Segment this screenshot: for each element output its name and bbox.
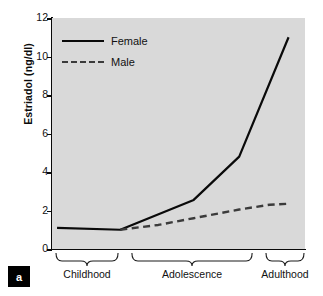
x-category-label-childhood: Childhood xyxy=(27,268,147,280)
bracket-adulthood xyxy=(266,253,304,266)
y-tick-label-12: 12 xyxy=(24,12,48,23)
bracket-childhood xyxy=(56,253,118,266)
y-tick-label-6: 6 xyxy=(24,128,48,139)
legend-label-male: Male xyxy=(111,56,135,68)
series-line-male xyxy=(120,204,288,230)
legend-item-male: Male xyxy=(62,51,192,72)
legend: FemaleMale xyxy=(62,30,192,72)
legend-label-female: Female xyxy=(111,35,148,47)
bracket-adolescence xyxy=(132,253,252,266)
y-tick-label-4: 4 xyxy=(24,166,48,177)
y-tick-label-8: 8 xyxy=(24,89,48,100)
y-tick-label-10: 10 xyxy=(24,51,48,62)
figure-panel: Estriadol (ng/dl) 121086420 FemaleMale a… xyxy=(0,0,323,296)
y-tick-label-2: 2 xyxy=(24,205,48,216)
x-category-label-adulthood: Adulthood xyxy=(225,268,323,280)
legend-swatch-solid-icon xyxy=(62,36,104,46)
legend-item-female: Female xyxy=(62,30,192,51)
legend-swatch-dashed-icon xyxy=(62,57,104,67)
